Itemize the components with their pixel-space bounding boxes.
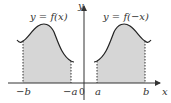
y-axis-label: y	[77, 0, 84, 11]
right-equation: y = f(−x)	[102, 11, 149, 22]
x-axis-label: x	[162, 86, 168, 97]
tick-a: a	[95, 86, 101, 97]
tick-neg-b: −b	[16, 86, 31, 97]
origin-label: 0	[79, 87, 85, 97]
symmetry-diagram: y = f(x) y = f(−x) y x 0 −b −a a b	[0, 0, 171, 103]
tick-b: b	[143, 86, 149, 97]
tick-neg-a: −a	[63, 86, 77, 97]
left-equation: y = f(x)	[29, 11, 68, 22]
